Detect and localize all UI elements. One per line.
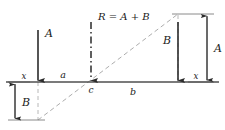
diagram-canvas: A R = A + B B B A a b c x x [0,0,225,130]
segment-label-b: b [130,86,136,97]
dimension-label-a: A [213,42,222,55]
force-label-a: A [44,27,53,40]
force-label-b: B [162,34,171,47]
resultant-label-r: R = A + B [97,11,150,22]
force-diagram-figure: A R = A + B B B A a b c x x [0,0,225,130]
axis-label-left-x: x [22,71,27,81]
diagonal-construction-line [38,14,178,120]
dimension-label-b: B [21,96,30,109]
point-label-c: c [88,85,93,95]
axis-label-right-x: x [194,71,199,81]
segment-label-a: a [60,69,66,80]
